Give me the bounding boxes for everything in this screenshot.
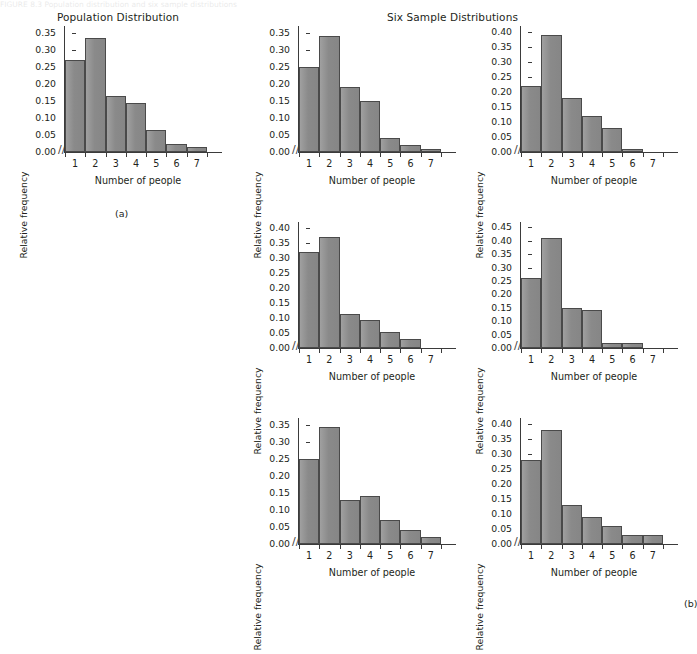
x-tick-label: 4 [367,551,373,561]
chart-sample-6: Relative frequency0.000.050.100.150.200.… [474,418,682,588]
x-tick-label: 4 [367,159,373,169]
y-tick-label: 0.10 [491,509,512,518]
x-tick-label: 6 [408,355,414,365]
x-tick-mark [380,545,381,549]
x-axis-label: Number of people [520,567,668,578]
x-tick-label: 7 [428,551,434,561]
y-tick-label: 0.40 [491,27,512,36]
x-tick-label: 3 [113,159,119,169]
x-tick-mark [622,153,623,157]
y-tick-label: 0.45 [491,223,512,232]
y-tick-label: 0.25 [269,62,290,71]
x-tick-mark [663,153,664,157]
x-tick-mark [562,349,563,353]
x-tick-mark [421,545,422,549]
x-tick-label: 2 [326,551,332,561]
x-axis-label: Number of people [520,175,668,186]
bar [562,505,582,544]
x-tick-label: 1 [306,551,312,561]
y-tick-label: 0.15 [35,96,56,105]
y-tick-label: 0.05 [491,132,512,141]
x-tick-label: 7 [194,159,200,169]
bar [126,103,146,152]
y-tick-label: 0.35 [491,42,512,51]
sample-charts-title: Six Sample Distributions [387,11,518,23]
y-tick-label: 0.35 [491,434,512,443]
bar [541,35,561,152]
x-tick-mark [441,153,442,157]
bar [582,310,602,348]
y-tick-label: 0.25 [269,454,290,463]
bar-series [521,418,669,544]
bar [380,332,400,349]
x-tick-label: 4 [589,355,595,365]
x-tick-label: 2 [326,159,332,169]
y-tick-label: 0.20 [35,79,56,88]
bar [622,343,642,348]
x-tick-mark [421,153,422,157]
y-axis-ticks: 0.000.050.100.150.200.250.300.350.40 [264,222,294,348]
x-tick-mark [441,349,442,353]
y-tick-label: 0.35 [269,420,290,429]
bar [521,278,541,348]
x-axis-label: Number of people [298,567,446,578]
x-tick-label: 2 [548,355,554,365]
y-tick-label: 0.00 [269,343,290,352]
bar [400,530,420,544]
x-tick-label: 5 [609,355,615,365]
bar [521,460,541,544]
x-tick-mark [85,153,86,157]
x-tick-label: 4 [589,551,595,561]
x-tick-mark [360,545,361,549]
x-axis-line [298,544,456,545]
x-tick-label: 2 [548,551,554,561]
x-tick-mark [126,153,127,157]
x-tick-label: 3 [569,551,575,561]
x-tick-mark [521,349,522,353]
bar [582,116,602,152]
y-tick-label: 0.25 [35,62,56,71]
panel-label-a: (a) [115,208,128,219]
y-tick-label: 0.00 [491,539,512,548]
x-tick-mark [643,349,644,353]
x-tick-label: 6 [630,355,636,365]
y-tick-label: 0.05 [269,328,290,337]
x-tick-mark [643,153,644,157]
y-tick-label: 0.15 [269,96,290,105]
x-tick-mark [622,349,623,353]
x-tick-mark [521,545,522,549]
x-tick-mark [582,349,583,353]
y-tick-label: 0.30 [35,45,56,54]
bar [602,128,622,152]
x-tick-mark [582,545,583,549]
y-tick-label: 0.35 [491,250,512,259]
bar [380,520,400,544]
x-tick-mark [582,153,583,157]
x-axis-line [520,348,678,349]
bar [602,343,622,348]
y-tick-label: 0.10 [269,313,290,322]
x-tick-label: 5 [609,551,615,561]
y-tick-label: 0.20 [491,290,512,299]
y-tick-label: 0.00 [269,539,290,548]
bar [421,149,441,152]
figure-caption-strip: FIGURE 8.3 Population distribution and s… [0,0,697,9]
population-chart-title: Population Distribution [57,11,179,23]
y-tick-label: 0.15 [269,488,290,497]
x-tick-label: 2 [548,159,554,169]
x-tick-label: 1 [306,159,312,169]
y-axis-ticks: 0.000.050.100.150.200.250.300.350.40 [486,418,516,544]
bar [541,238,561,348]
bar [582,517,602,544]
x-tick-label: 5 [609,159,615,169]
bar [562,308,582,348]
x-tick-mark [360,349,361,353]
x-tick-mark [541,153,542,157]
x-tick-label: 2 [92,159,98,169]
bar-series [299,418,447,544]
y-tick-label: 0.10 [491,117,512,126]
x-tick-label: 3 [569,159,575,169]
x-tick-label: 7 [428,355,434,365]
x-tick-label: 5 [387,355,393,365]
